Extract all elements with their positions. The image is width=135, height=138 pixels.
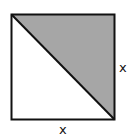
bottom-side-label: x (59, 122, 67, 137)
square-diagram: x x (0, 0, 135, 138)
right-side-label: x (119, 60, 127, 75)
